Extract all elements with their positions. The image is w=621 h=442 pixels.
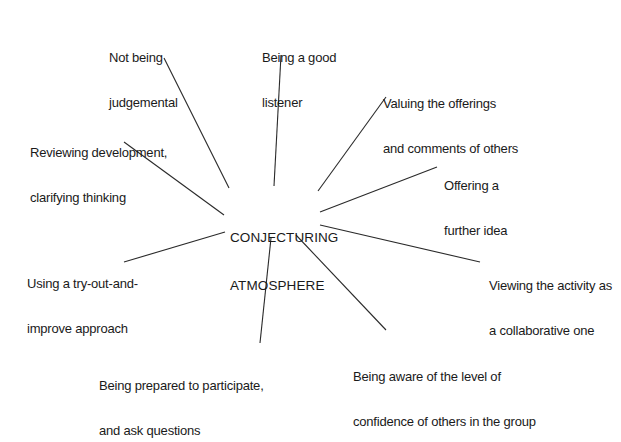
center-line-2: ATMOSPHERE bbox=[230, 278, 338, 294]
node-line-1: Valuing the offerings bbox=[383, 96, 518, 111]
node-line-1: Being prepared to participate, bbox=[99, 378, 264, 393]
node-line-1: Using a try-out-and- bbox=[27, 276, 138, 291]
node-line-1: Being a good bbox=[262, 50, 336, 65]
node-reviewing: Reviewing development, clarifying thinki… bbox=[30, 115, 167, 220]
node-line-2: judgemental bbox=[109, 95, 178, 110]
node-good-listener: Being a good listener bbox=[262, 20, 336, 125]
node-prepared-participate: Being prepared to participate, and ask q… bbox=[99, 348, 264, 442]
center-concept: CONJECTURING ATMOSPHERE bbox=[230, 198, 338, 310]
node-line-1: Offering a bbox=[444, 178, 507, 193]
node-line-1: Being aware of the level of bbox=[353, 369, 536, 384]
node-line-2: listener bbox=[262, 95, 336, 110]
node-aware-confidence: Being aware of the level of confidence o… bbox=[353, 339, 536, 442]
connector-try-out-improve bbox=[124, 232, 225, 262]
node-further-idea: Offering a further idea bbox=[444, 148, 507, 253]
node-not-judgemental: Not being judgemental bbox=[109, 20, 178, 125]
node-try-out-improve: Using a try-out-and- improve approach bbox=[27, 246, 138, 351]
node-collaborative: Viewing the activity as a collaborative … bbox=[489, 248, 612, 353]
node-line-2: further idea bbox=[444, 223, 507, 238]
node-line-2: confidence of others in the group bbox=[353, 414, 536, 429]
node-line-2: clarifying thinking bbox=[30, 190, 167, 205]
node-line-2: and ask questions bbox=[99, 423, 264, 438]
center-line-1: CONJECTURING bbox=[230, 230, 338, 246]
node-line-2: a collaborative one bbox=[489, 323, 612, 338]
node-line-1: Reviewing development, bbox=[30, 145, 167, 160]
node-line-2: improve approach bbox=[27, 321, 138, 336]
node-line-1: Not being bbox=[109, 50, 178, 65]
node-line-1: Viewing the activity as bbox=[489, 278, 612, 293]
